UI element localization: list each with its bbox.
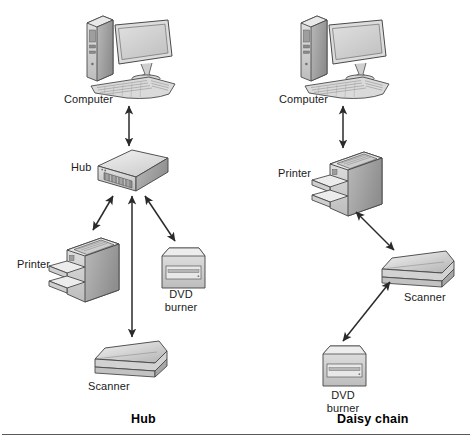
label-dvd-line1: DVD [331, 389, 355, 401]
diagram-canvas [0, 0, 472, 446]
label-scanner-hub-panel: Scanner [88, 380, 130, 392]
dvd-burner-icon [323, 346, 366, 386]
label-computer-daisy-panel: Computer [279, 93, 328, 105]
label-printer-daisy-panel: Printer [278, 167, 311, 179]
printer-icon [49, 238, 119, 302]
printer-icon [312, 152, 382, 216]
label-dvd-burner-daisy-panel: DVD burner [318, 389, 368, 414]
label-scanner-daisy-panel: Scanner [404, 291, 446, 303]
caption-daisy-chain: Daisy chain [337, 412, 409, 426]
label-computer-hub-panel: Computer [64, 93, 113, 105]
diagram-figure: Computer Hub Printer DVD burner Scanner … [0, 0, 472, 446]
desktop-computer-icon [87, 16, 175, 99]
desktop-computer-icon [301, 16, 389, 99]
label-printer-hub-panel: Printer [17, 258, 50, 270]
scanner-icon [95, 341, 167, 377]
label-dvd-line1: DVD [169, 288, 193, 300]
dvd-burner-icon [162, 248, 205, 288]
connection-lines-daisy [343, 106, 394, 341]
bottom-divider [2, 434, 470, 435]
caption-hub: Hub [131, 412, 156, 426]
connector-printer-scanner [356, 212, 394, 250]
connector-hub-printer [93, 196, 113, 230]
connector-scanner-dvd [343, 282, 390, 341]
scanner-icon [382, 251, 454, 287]
connector-hub-dvd [145, 196, 175, 241]
label-dvd-line2: burner [165, 301, 197, 313]
label-hub: Hub [71, 161, 91, 173]
network-hub-icon [98, 150, 168, 191]
label-dvd-burner-hub-panel: DVD burner [160, 288, 202, 313]
